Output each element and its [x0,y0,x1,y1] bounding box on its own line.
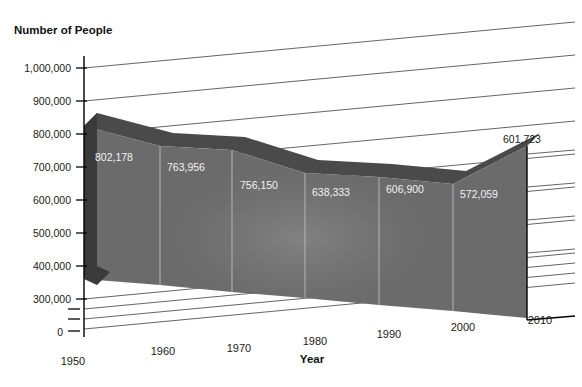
data-label-1970: 756,150 [240,179,278,191]
chart-container: Number of People [0,0,582,387]
data-label-2000: 572,059 [460,188,498,200]
x-tick-label-1970: 1970 [227,342,251,354]
area-3d [84,113,540,318]
y-tick-label: 300,000 [33,293,71,305]
y-tick-label: 1,000,000 [24,62,71,74]
gridline-1000000 [84,22,575,68]
y-tick-label: 400,000 [33,260,71,272]
area-chart: Number of People [0,0,582,387]
data-label-1990: 606,900 [386,183,424,195]
x-tick-label-1980: 1980 [303,335,327,347]
y-tick-labels: 1,000,000 900,000 800,000 700,000 600,00… [24,62,71,338]
x-tick-label-1990: 1990 [377,328,401,340]
data-label-1960: 763,956 [167,161,205,173]
data-label-1980: 638,333 [312,186,350,198]
y-tick-label: 500,000 [33,227,71,239]
y-tick-label: 900,000 [33,95,71,107]
gridline-900000 [84,55,575,101]
data-label-2010: 601,723 [503,133,541,145]
y-tick-label: 800,000 [33,128,71,140]
x-tick-label-2010: 2010 [528,314,552,326]
gridline-800000 [84,88,575,134]
area-highlight [150,158,450,318]
data-label-1950: 802,178 [95,151,133,163]
x-axis-title: Year [300,353,325,365]
y-tick-label: 700,000 [33,161,71,173]
right-axis-ticks [527,150,575,320]
y-tick-label: 600,000 [33,194,71,206]
y-axis-title: Number of People [14,24,112,36]
x-tick-label-2000: 2000 [451,321,475,333]
x-tick-label-1960: 1960 [151,345,175,357]
area-left-side-face [84,113,97,279]
y-tick-label: 0 [57,326,63,338]
x-tick-label-1950: 1950 [61,355,85,367]
